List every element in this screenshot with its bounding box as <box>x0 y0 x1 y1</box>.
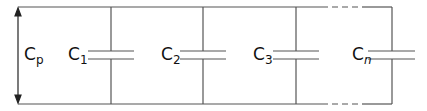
label-cn: Cn <box>352 46 371 66</box>
label-c1: C1 <box>68 46 88 66</box>
capacitor-c3 <box>273 7 319 104</box>
cp-double-arrow-icon <box>15 8 21 103</box>
label-cp: Cp <box>24 46 44 66</box>
capacitor-c2 <box>180 7 226 104</box>
capacitor-c1 <box>88 7 134 104</box>
label-c3: C3 <box>253 46 273 66</box>
capacitor-cn <box>368 7 415 104</box>
label-c2: C2 <box>161 46 181 66</box>
